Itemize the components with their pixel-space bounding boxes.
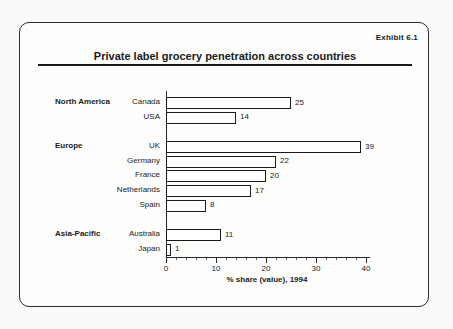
bar-label: UK bbox=[86, 141, 160, 150]
bar-label: Canada bbox=[86, 97, 160, 106]
bar-label: Spain bbox=[86, 200, 160, 209]
x-axis-minor-tick bbox=[246, 258, 247, 260]
x-axis-tick-label: 20 bbox=[254, 264, 278, 273]
bar-label: Netherlands bbox=[86, 185, 160, 194]
x-axis-title: % share (value), 1994 bbox=[166, 275, 368, 284]
bar bbox=[166, 97, 291, 109]
bar bbox=[166, 229, 221, 241]
x-axis-minor-tick bbox=[346, 258, 347, 260]
x-axis-minor-tick bbox=[206, 258, 207, 260]
x-axis-minor-tick bbox=[226, 258, 227, 260]
bar bbox=[166, 141, 361, 153]
x-axis-minor-tick bbox=[196, 258, 197, 260]
x-axis-minor-tick bbox=[186, 258, 187, 260]
bar-label: Germany bbox=[86, 156, 160, 165]
bar-value-label: 11 bbox=[225, 230, 233, 239]
bar-value-label: 17 bbox=[255, 186, 264, 195]
x-axis-minor-tick bbox=[256, 258, 257, 260]
bar-label: USA bbox=[86, 112, 160, 121]
bar-value-label: 1 bbox=[175, 244, 179, 253]
x-axis-tick bbox=[166, 258, 167, 263]
bar-value-label: 22 bbox=[280, 156, 289, 165]
x-axis-minor-tick bbox=[296, 258, 297, 260]
x-axis-minor-tick bbox=[356, 258, 357, 260]
bar-value-label: 14 bbox=[240, 112, 249, 121]
x-axis-tick-label: 40 bbox=[354, 264, 378, 273]
x-axis-minor-tick bbox=[326, 258, 327, 260]
x-axis-minor-tick bbox=[276, 258, 277, 260]
bar-value-label: 25 bbox=[295, 98, 304, 107]
x-axis-minor-tick bbox=[286, 258, 287, 260]
bar-label: France bbox=[86, 170, 160, 179]
x-axis-tick bbox=[216, 258, 217, 263]
x-axis-minor-tick bbox=[176, 258, 177, 260]
bar bbox=[166, 244, 171, 256]
bar-value-label: 20 bbox=[270, 171, 279, 180]
bar-chart: % share (value), 1994 North AmericaCanad… bbox=[0, 0, 453, 329]
bar bbox=[166, 170, 266, 182]
x-axis-tick bbox=[366, 258, 367, 263]
x-axis-tick-label: 10 bbox=[204, 264, 228, 273]
scanned-page: Exhibit 6.1 Private label grocery penetr… bbox=[0, 0, 453, 329]
x-axis-tick bbox=[266, 258, 267, 263]
bar bbox=[166, 185, 251, 197]
x-axis-minor-tick bbox=[236, 258, 237, 260]
bar-label: Australia bbox=[86, 229, 160, 238]
bar-value-label: 39 bbox=[365, 142, 374, 151]
bar bbox=[166, 200, 206, 212]
bar-label: Japan bbox=[86, 244, 160, 253]
bar bbox=[166, 156, 276, 168]
x-axis-tick bbox=[316, 258, 317, 263]
bar-value-label: 8 bbox=[210, 200, 214, 209]
x-axis-tick-label: 0 bbox=[154, 264, 178, 273]
x-axis-minor-tick bbox=[336, 258, 337, 260]
x-axis-minor-tick bbox=[306, 258, 307, 260]
group-label: Europe bbox=[55, 141, 83, 150]
x-axis-tick-label: 30 bbox=[304, 264, 328, 273]
bar bbox=[166, 112, 236, 124]
